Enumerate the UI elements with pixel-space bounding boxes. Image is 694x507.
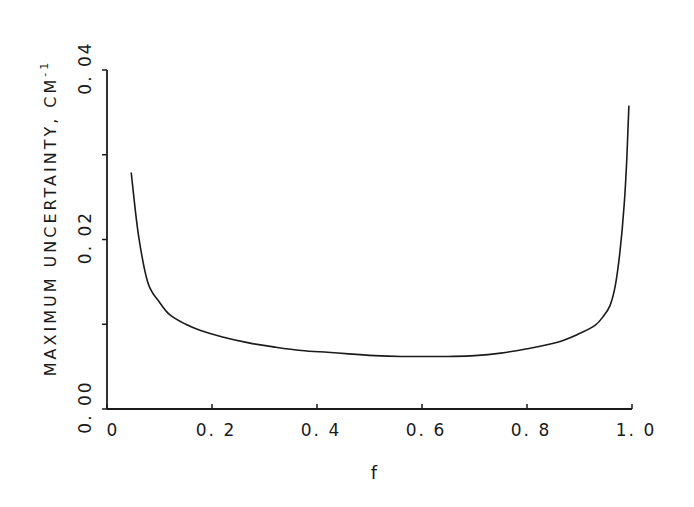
x-tick-label: 0. 8 — [511, 420, 551, 440]
y-tick-label: 0. 02 — [75, 211, 95, 264]
x-tick-label: 0. 2 — [196, 420, 236, 440]
x-tick-label: 0 — [107, 420, 120, 440]
x-tick-label: 0. 4 — [301, 420, 341, 440]
x-axis-title: f — [371, 462, 378, 483]
axes — [107, 70, 632, 409]
x-tick-label: 1. 0 — [616, 420, 656, 440]
y-tick-label: 0. 04 — [75, 41, 95, 94]
x-tick-label: 0. 6 — [406, 420, 446, 440]
y-axis-title: MAXIMUM UNCERTAINTY, CM-1 — [38, 60, 60, 377]
y-axis-title-text: MAXIMUM UNCERTAINTY, CM — [41, 77, 60, 377]
y-axis-title-superscript: -1 — [38, 60, 51, 77]
chart: 00. 20. 40. 60. 81. 0 0. 000. 020. 04 f … — [0, 0, 694, 507]
data-series-line — [131, 106, 629, 357]
y-tick-label: 0. 00 — [75, 380, 95, 433]
y-axis-ticks: 0. 000. 020. 04 — [75, 41, 107, 433]
